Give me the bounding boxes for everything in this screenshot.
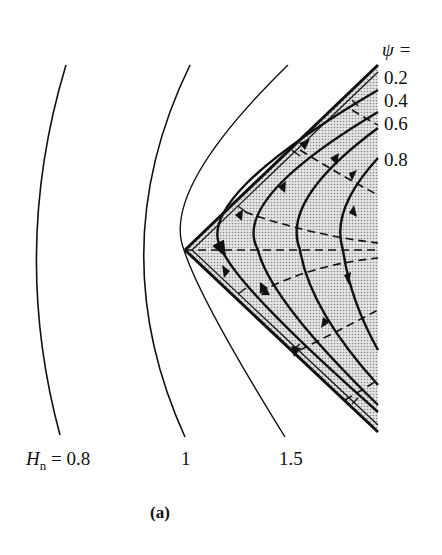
diagram-canvas: [0, 0, 442, 555]
psi-label-0.8: 0.8: [384, 150, 408, 169]
hn-label-1.5: 1.5: [279, 449, 303, 468]
hn-value-0.8: = 0.8: [51, 448, 90, 469]
hn-contour-1: [144, 65, 190, 437]
psi-label-0.6: 0.6: [384, 114, 408, 133]
hn-symbol: H: [26, 448, 40, 469]
hn-label-0.8: Hn = 0.8: [26, 449, 90, 468]
hn-contour-0.8: [36, 65, 66, 435]
psi-header-label: ψ =: [382, 40, 411, 59]
hn-label-1: 1: [181, 449, 191, 468]
psi-label-0.2: 0.2: [384, 68, 408, 87]
psi-header-text: ψ =: [382, 39, 411, 60]
hn-subscript: n: [40, 458, 47, 473]
figure-caption: (a): [150, 504, 170, 521]
psi-label-0.4: 0.4: [384, 91, 408, 110]
